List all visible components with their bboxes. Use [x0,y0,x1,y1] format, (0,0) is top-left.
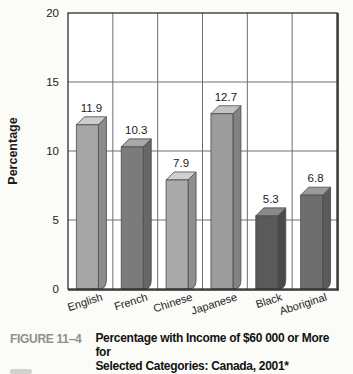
bar-side-face [233,106,241,289]
bar-value-label: 10.3 [125,124,147,136]
bar-front-face [256,216,278,289]
bar-side-face [98,117,106,289]
bar-front-face [211,114,233,289]
x-category-label: Japanese [189,290,238,316]
bar-value-label: 6.8 [308,172,324,184]
bar-value-label: 12.7 [215,91,237,103]
bar-value-label: 11.9 [81,102,103,114]
cropped-element-bottom [10,369,32,374]
bar-side-face [188,172,196,289]
figure-label: FIGURE 11–4 [10,331,81,346]
bar-value-label: 7.9 [173,157,189,169]
bar-english: 11.9 [76,102,106,289]
y-tick-label: 0 [53,283,59,295]
y-tick-label: 20 [46,7,59,19]
bar-front-face [76,125,98,289]
figure-title-line1: Percentage with Income of $60 000 or Mor… [95,331,346,359]
bar-french: 10.3 [121,124,151,289]
bar-side-face [143,139,151,289]
figure-title: Percentage with Income of $60 000 or Mor… [95,331,346,373]
x-category-label: Chinese [152,290,194,314]
bar-value-label: 5.3 [263,193,279,205]
y-axis-title: Percentage [6,117,20,184]
figure-title-line2: Selected Categories: Canada, 2001* [95,359,346,373]
y-tick-label: 10 [46,145,59,157]
x-category-label: Aboriginal [278,290,328,317]
y-tick-label: 15 [46,76,59,88]
bar-front-face [166,180,188,289]
x-category-label: French [113,290,149,312]
bar-front-face [121,147,143,289]
bar-side-face [278,208,286,289]
y-tick-label: 5 [53,214,59,226]
bar-japanese: 12.7 [211,91,241,289]
bar-side-face [323,187,331,289]
figure-chart: 11.910.37.912.75.36.805101520PercentageE… [0,0,353,322]
bar-chinese: 7.9 [166,157,196,289]
bar-front-face [301,195,323,289]
figure-caption: FIGURE 11–4 Percentage with Income of $6… [10,331,346,373]
x-category-label: English [66,290,104,313]
